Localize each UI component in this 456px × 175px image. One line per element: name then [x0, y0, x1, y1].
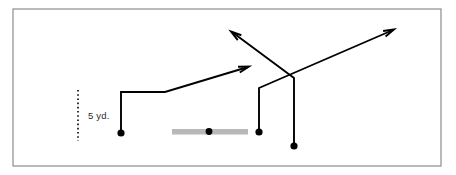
play-diagram-stage: 5 yd. [0, 0, 456, 175]
measure-label: 5 yd. [88, 110, 110, 121]
play-diagram-svg: 5 yd. [0, 0, 456, 175]
receiver-left-marker [117, 129, 124, 136]
diagram-frame [13, 9, 441, 166]
receiver-outside-marker [290, 142, 297, 149]
receiver-slot-marker [255, 128, 262, 135]
ball-marker [206, 128, 213, 135]
